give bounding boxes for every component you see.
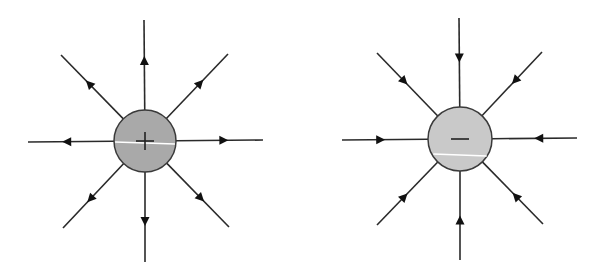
arrow-up-icon — [455, 54, 464, 63]
arrow-left-icon — [62, 137, 71, 146]
positive-charge-group: Positive charge — [28, 20, 263, 262]
arrow-right-icon — [219, 136, 228, 145]
field-lines-diagram: Positive charge Negative charge — [0, 0, 607, 269]
arrow-left-icon — [376, 135, 385, 144]
negative-charge-group: Negative charge — [342, 18, 577, 260]
arrow-right-icon — [534, 134, 543, 143]
arrow-down-icon — [456, 215, 465, 224]
arrow-down-icon — [141, 217, 150, 226]
arrow-up-icon — [140, 56, 149, 65]
